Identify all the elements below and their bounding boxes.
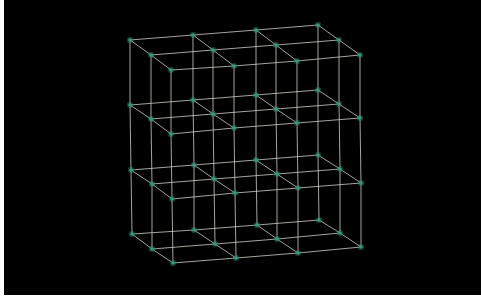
lattice-node xyxy=(317,218,321,222)
lattice-node xyxy=(149,117,153,121)
lattice-node xyxy=(213,242,217,246)
lattice-node xyxy=(296,186,300,190)
lattice-edge xyxy=(193,100,194,165)
lattice-edge xyxy=(214,179,215,244)
lattice-node xyxy=(171,261,175,265)
lattice-edge xyxy=(257,220,319,225)
lattice-node xyxy=(337,38,341,42)
lattice-node xyxy=(358,116,362,120)
lattice-edge xyxy=(215,239,277,244)
lattice-edge xyxy=(339,104,360,118)
lattice-edge xyxy=(234,61,297,66)
lattice-edge xyxy=(298,183,361,188)
lattice-edge xyxy=(193,100,213,114)
lattice-edge xyxy=(297,118,360,123)
lattice-edge xyxy=(130,35,193,40)
3d-viewport[interactable] xyxy=(4,0,481,295)
lattice-edge xyxy=(151,55,171,70)
lattice-edge xyxy=(194,165,214,179)
lattice-node xyxy=(274,107,278,111)
lattice-wireframe xyxy=(4,0,481,295)
lattice-edges xyxy=(130,25,361,263)
lattice-edge xyxy=(297,123,298,188)
lattice-edge xyxy=(276,109,297,123)
lattice-edge xyxy=(277,233,340,239)
lattice-edge xyxy=(194,225,257,230)
lattice-edge xyxy=(193,95,256,100)
lattice-node xyxy=(296,251,300,255)
lattice-edge xyxy=(234,128,235,193)
lattice-edge xyxy=(277,239,298,253)
lattice-edge xyxy=(213,50,234,66)
lattice-edge xyxy=(256,160,277,174)
lattice-node xyxy=(337,102,341,106)
lattice-edge xyxy=(276,104,339,109)
lattice-edge xyxy=(131,165,194,170)
lattice-edge xyxy=(276,45,297,61)
lattice-edge xyxy=(173,258,236,263)
lattice-node xyxy=(211,48,215,52)
lattice-edge xyxy=(256,160,257,225)
lattice-nodes xyxy=(127,22,364,266)
lattice-edge xyxy=(318,25,339,40)
lattice-edge xyxy=(257,225,277,239)
lattice-edge xyxy=(235,193,236,258)
lattice-edge xyxy=(213,114,234,128)
lattice-node xyxy=(169,68,173,72)
lattice-edge xyxy=(130,40,151,55)
lattice-edge xyxy=(193,30,256,35)
lattice-node xyxy=(316,153,320,157)
lattice-edge xyxy=(151,119,152,184)
lattice-edge xyxy=(276,40,339,45)
lattice-edge xyxy=(130,105,151,119)
lattice-edge xyxy=(360,118,361,183)
lattice-node xyxy=(128,103,132,107)
lattice-edge xyxy=(151,114,213,119)
lattice-edge xyxy=(213,114,214,179)
lattice-edge xyxy=(339,104,340,169)
lattice-edge xyxy=(277,174,298,188)
lattice-edge xyxy=(194,230,215,244)
lattice-edge xyxy=(339,40,360,55)
lattice-node xyxy=(295,121,299,125)
lattice-node xyxy=(275,172,279,176)
lattice-node xyxy=(150,247,154,251)
lattice-edge xyxy=(319,220,340,233)
lattice-node xyxy=(192,228,196,232)
lattice-edge xyxy=(256,90,318,95)
lattice-edge xyxy=(340,169,361,183)
lattice-edge xyxy=(215,244,236,258)
lattice-node xyxy=(358,53,362,57)
lattice-node xyxy=(234,256,238,260)
lattice-edge xyxy=(131,170,132,234)
lattice-edge xyxy=(152,249,173,263)
lattice-edge xyxy=(130,105,131,170)
lattice-node xyxy=(191,98,195,102)
lattice-node xyxy=(254,158,258,162)
lattice-node xyxy=(129,168,133,172)
lattice-edge xyxy=(194,160,256,165)
lattice-edge xyxy=(152,244,215,249)
lattice-node xyxy=(169,132,173,136)
lattice-edge xyxy=(236,253,298,258)
lattice-edge xyxy=(171,66,234,70)
lattice-edge xyxy=(152,179,214,184)
lattice-edge xyxy=(130,100,193,105)
lattice-edge xyxy=(256,25,318,30)
lattice-node xyxy=(150,182,154,186)
lattice-edge xyxy=(213,45,276,50)
lattice-node xyxy=(212,177,216,181)
lattice-node xyxy=(149,53,153,57)
lattice-node xyxy=(170,197,174,201)
lattice-edge xyxy=(298,247,361,253)
lattice-edge xyxy=(132,230,194,234)
lattice-node xyxy=(316,23,320,27)
lattice-edge xyxy=(277,169,340,174)
lattice-edge xyxy=(132,234,152,249)
lattice-node xyxy=(130,232,134,236)
lattice-node xyxy=(295,59,299,63)
lattice-edge xyxy=(256,30,276,45)
lattice-edge xyxy=(234,123,297,128)
lattice-edge xyxy=(151,50,213,55)
lattice-edge xyxy=(340,233,361,247)
